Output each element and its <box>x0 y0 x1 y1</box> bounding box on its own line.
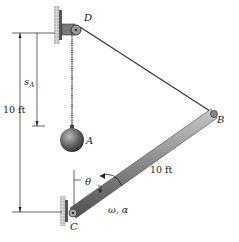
label-d: D <box>83 12 92 23</box>
pulley-d <box>71 25 81 35</box>
label-theta: θ <box>85 176 91 187</box>
label-sa: sA <box>24 76 34 89</box>
label-c: C <box>70 221 78 232</box>
weight-a <box>60 125 84 152</box>
cable <box>72 27 213 128</box>
rod-bc <box>70 109 218 218</box>
label-rod-length: 10 ft <box>150 164 173 175</box>
label-a: A <box>85 135 93 146</box>
mechanism-diagram: D A B C 10 ft sA 10 ft θ ω, α <box>0 0 239 242</box>
dimension-sa <box>32 33 45 126</box>
label-total-height: 10 ft <box>3 104 26 115</box>
label-b: B <box>216 114 224 125</box>
label-omega-alpha: ω, α <box>108 204 129 215</box>
